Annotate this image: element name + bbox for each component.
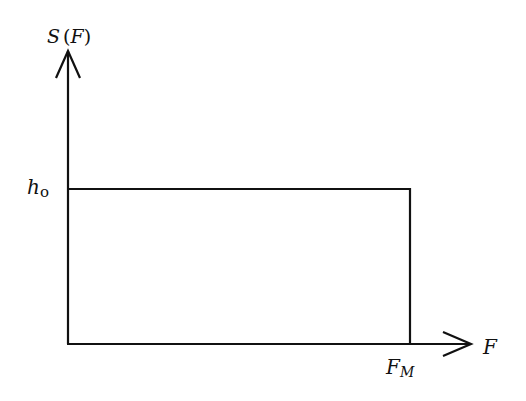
step-function-curve	[68, 188, 411, 344]
level-label: ho	[27, 175, 49, 201]
x-axis-label: F	[482, 335, 498, 359]
y-axis-label: S(F)	[47, 25, 91, 47]
step-function-diagram: S(F) ho FM F	[0, 0, 526, 401]
cutoff-label: FM	[385, 355, 415, 380]
y-axis	[56, 51, 80, 344]
